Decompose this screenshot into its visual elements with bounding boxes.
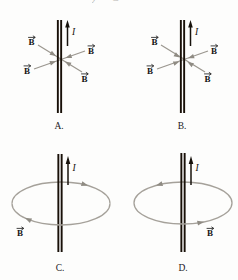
svg-text:B: B [28,37,34,47]
current-wire [57,154,62,252]
current-label: I [71,27,76,37]
field-vector-lines [157,45,208,72]
current-label: I [72,163,77,173]
field-vector-lines [34,45,85,72]
b-vector-label: B [17,227,24,238]
current-wire [180,20,185,113]
field-arrowhead-icon [187,54,194,60]
svg-text:B: B [17,228,23,238]
current-arrow-icon [188,20,193,46]
field-arrowhead-icon [50,51,58,58]
svg-text:B: B [204,74,210,84]
svg-text:B: B [207,228,213,238]
svg-text:B: B [147,66,153,76]
current-arrow-icon [66,156,71,185]
field-arrowhead-icon [65,54,72,60]
panel-c-drawing: I B C. [0,140,119,280]
svg-text:B: B [81,74,87,84]
b-vector-label: B [207,227,214,238]
current-arrow-icon [189,156,194,185]
panel-caption: D. [178,263,187,273]
field-arrowhead-icon [64,60,72,67]
current-wire [180,153,185,252]
field-loop-front-arc [134,203,232,224]
svg-text:B: B [24,66,30,76]
b-vector-label: B [211,44,218,55]
current-label: I [194,27,199,37]
b-vector-label: B [204,72,211,83]
field-arrowhead-icon [81,181,89,188]
panel-d: I B D. [119,140,238,280]
field-vector-line [38,45,82,72]
svg-text:B: B [151,37,157,47]
field-arrowhead-icon [173,59,180,65]
svg-text:B: B [88,46,94,56]
svg-text:B: B [211,46,217,56]
panel-caption: B. [178,121,187,131]
field-vector-line [161,45,205,72]
b-vector-label: B [88,44,95,55]
panel-c: I B C. [0,140,119,280]
current-wire [57,20,62,113]
panel-a-drawing: I B B B B A. [0,0,119,140]
b-vector-label: B [24,64,31,75]
panel-caption: C. [56,263,65,273]
b-vector-label: B [28,36,35,47]
b-vector-label: B [147,64,154,75]
b-vector-label: B [81,72,88,83]
field-vector-line [34,51,85,69]
panel-b: I B B B B B. [119,0,238,140]
panel-d-drawing: I B D. [119,140,238,280]
field-arrowhead-icon [24,216,32,223]
current-arrow-icon [65,20,70,46]
b-vector-label: B [151,36,158,47]
panel-b-drawing: I B B B B B. [119,0,238,140]
current-label: I [195,163,200,173]
panel-caption: A. [54,121,63,131]
field-loop-back-arc [134,182,232,203]
physics-figure: y C I [0,0,238,280]
field-arrowhead-icon [49,59,56,65]
field-vector-line [157,51,208,69]
field-arrowhead-icon [155,181,163,188]
panel-a: I B B B B A. [0,0,119,140]
